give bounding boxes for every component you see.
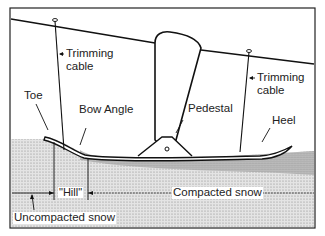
label-bow-angle: Bow Angle <box>79 104 133 116</box>
label-compacted-snow: Compacted snow <box>172 187 263 199</box>
label-toe: Toe <box>24 90 43 102</box>
diagram-frame: Trimming cable Trimming cable Toe Bow An… <box>0 0 325 236</box>
label-trimming-cable-right-1: Trimming <box>257 72 305 84</box>
label-uncompacted-snow: Uncompacted snow <box>13 212 116 224</box>
label-heel: Heel <box>272 115 296 127</box>
label-trimming-cable-left-1: Trimming <box>66 48 114 60</box>
label-pedestal: Pedestal <box>188 103 233 115</box>
label-trimming-cable-left-2: cable <box>66 61 94 73</box>
label-hill: "Hill" <box>58 187 83 198</box>
label-trimming-cable-right-2: cable <box>257 85 285 97</box>
